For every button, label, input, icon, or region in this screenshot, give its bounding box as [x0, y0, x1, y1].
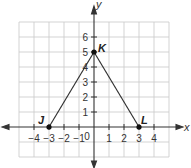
coordinate-plane: −4 −3 −2 −1 0 1 2 3 4 1 2 3 4 5 6 x y J … — [0, 0, 191, 168]
x-axis-label: x — [183, 121, 190, 133]
y-tick-1: 1 — [82, 107, 88, 118]
y-tick-6: 6 — [82, 32, 88, 43]
y-axis — [92, 6, 97, 168]
point-j — [46, 124, 51, 129]
segment-kl — [94, 52, 139, 127]
x-tick-p2: 2 — [121, 133, 127, 144]
y-tick-2: 2 — [82, 92, 88, 103]
x-tick-p3: 3 — [136, 133, 142, 144]
point-l-label: L — [141, 114, 148, 126]
x-axis — [2, 125, 183, 130]
x-tick-p1: 1 — [106, 133, 112, 144]
y-tick-5: 5 — [82, 47, 88, 58]
x-tick-m3: −3 — [43, 133, 55, 144]
x-tick-p4: 4 — [151, 133, 157, 144]
origin-label: 0 — [84, 131, 90, 142]
point-k — [91, 49, 96, 54]
point-k-label: K — [98, 42, 107, 54]
y-tick-labels: 1 2 3 4 5 6 — [82, 32, 88, 118]
y-axis-label: y — [95, 0, 103, 10]
x-tick-m4: −4 — [28, 133, 40, 144]
point-j-label: J — [38, 114, 45, 126]
y-tick-3: 3 — [82, 77, 88, 88]
x-tick-m2: −2 — [58, 133, 70, 144]
